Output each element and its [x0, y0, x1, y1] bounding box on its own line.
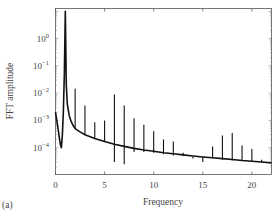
y-tick-label: 100 — [37, 32, 49, 44]
x-axis-ticks: 05101520 — [53, 9, 257, 190]
x-tick-label: 15 — [198, 180, 208, 190]
x-tick-label: 0 — [53, 180, 58, 190]
y-tick-label: 10−2 — [33, 86, 49, 98]
panel-label: (a) — [2, 200, 13, 211]
y-tick-label: 10−1 — [33, 59, 49, 71]
y-tick-label: 10−4 — [33, 141, 50, 153]
x-axis-label: Frequency — [143, 197, 183, 207]
y-tick-label: 10−3 — [33, 113, 49, 125]
x-tick-label: 5 — [102, 180, 107, 190]
x-tick-label: 10 — [149, 180, 159, 190]
y-axis-ticks: 10010−110−210−310−4 — [33, 11, 271, 167]
y-axis-label: FFT amplitude — [5, 63, 15, 120]
fft-amplitude-chart: 05101520 10010−110−210−310−4 Frequency F… — [0, 0, 278, 220]
x-tick-label: 20 — [247, 180, 257, 190]
